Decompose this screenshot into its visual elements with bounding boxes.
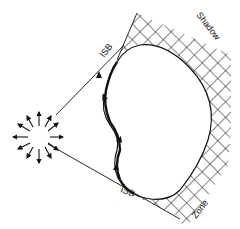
- point-source-icon: [13, 112, 63, 163]
- label-shadow: Shadow: [194, 10, 222, 42]
- label-isb-top: ISB: [98, 42, 115, 60]
- diagram-canvas: ISB ISB Shadow Zone: [0, 0, 240, 229]
